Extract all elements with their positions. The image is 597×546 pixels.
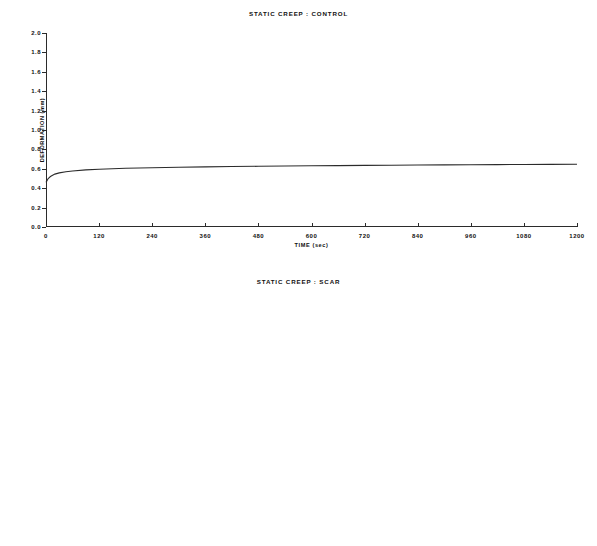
creep-curve-control bbox=[46, 33, 577, 227]
x-tick-label: 1200 bbox=[569, 233, 584, 239]
y-tick-label: 1.0 bbox=[31, 127, 41, 133]
x-tick-label: 1080 bbox=[516, 233, 531, 239]
x-tick-label: 240 bbox=[146, 233, 158, 239]
x-tick-label: 720 bbox=[359, 233, 371, 239]
y-tick-label: 0.4 bbox=[31, 185, 41, 191]
x-tick-label: 960 bbox=[465, 233, 477, 239]
x-tick-label: 0 bbox=[44, 233, 48, 239]
y-tick-label: 1.8 bbox=[31, 49, 41, 55]
chart-panel-control: STATIC CREEP : CONTROL DEFORMATION (mm) … bbox=[0, 0, 597, 268]
x-tick-label: 480 bbox=[253, 233, 265, 239]
x-tick-label: 840 bbox=[412, 233, 424, 239]
y-tick-label: 1.4 bbox=[31, 88, 41, 94]
chart-title-scar: STATIC CREEP : SCAR bbox=[0, 278, 597, 285]
y-tick-label: 0.0 bbox=[31, 224, 41, 230]
y-tick-label: 1.6 bbox=[31, 69, 41, 75]
x-tick-label: 120 bbox=[93, 233, 105, 239]
x-tick-label: 360 bbox=[200, 233, 212, 239]
x-tick-label: 600 bbox=[306, 233, 318, 239]
y-tick-label: 0.2 bbox=[31, 205, 41, 211]
y-tick-mark bbox=[42, 227, 46, 228]
chart-panel-scar: STATIC CREEP : SCAR DEFORMATION (mm) TIM… bbox=[0, 268, 597, 536]
y-tick-label: 0.6 bbox=[31, 166, 41, 172]
x-tick-mark bbox=[577, 223, 578, 227]
x-axis-title: TIME (sec) bbox=[46, 242, 577, 248]
y-tick-label: 2.0 bbox=[31, 30, 41, 36]
plot-area-control: DEFORMATION (mm) TIME (sec) 0.00.20.40.6… bbox=[46, 33, 577, 227]
y-tick-label: 1.2 bbox=[31, 108, 41, 114]
chart-title-control: STATIC CREEP : CONTROL bbox=[0, 10, 597, 17]
y-tick-label: 0.8 bbox=[31, 146, 41, 152]
